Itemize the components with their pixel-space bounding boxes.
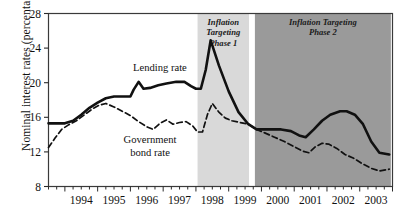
x-tick-label-1998: 1998 bbox=[201, 194, 224, 206]
y-tick-label-28: 28 bbox=[30, 8, 42, 20]
x-tick-label-2000: 2000 bbox=[266, 194, 289, 206]
y-tick-label-12: 12 bbox=[30, 146, 42, 158]
y-tick-label-20: 20 bbox=[30, 77, 42, 89]
x-tick-label-1995: 1995 bbox=[103, 194, 126, 206]
chart-figure: Nominal interest rates (percentages) Inf… bbox=[0, 0, 401, 224]
y-tick-label-16: 16 bbox=[30, 111, 42, 123]
x-tick-label-2002: 2002 bbox=[332, 194, 355, 206]
y-tick-label-24: 24 bbox=[30, 42, 42, 54]
y-tick-label-8: 8 bbox=[35, 181, 41, 193]
lending-rate-label: Lending rate bbox=[133, 62, 187, 73]
x-tick-label-1996: 1996 bbox=[135, 194, 158, 206]
government-bond-rate-label-line2: bond rate bbox=[130, 147, 170, 158]
x-tick-label-1999: 1999 bbox=[234, 194, 257, 206]
shaded-band-2 bbox=[255, 14, 391, 187]
government-bond-rate-label-line1: Government bbox=[124, 134, 177, 145]
band-2-label-line-1: Inflation Targeting bbox=[288, 17, 357, 27]
band-1-label-line-2: Targeting bbox=[206, 27, 241, 37]
x-tick-label-2001: 2001 bbox=[299, 194, 322, 206]
band-1-label-line-1: Inflation bbox=[207, 17, 240, 27]
x-tick-label-1994: 1994 bbox=[70, 194, 93, 206]
band-2-label-line-2: Phase 2 bbox=[309, 27, 338, 37]
x-tick-label-1997: 1997 bbox=[168, 194, 191, 206]
chart-plot-area: InflationTargetingPhase 1Inflation Targe… bbox=[0, 0, 401, 224]
x-tick-label-2003: 2003 bbox=[365, 194, 388, 206]
